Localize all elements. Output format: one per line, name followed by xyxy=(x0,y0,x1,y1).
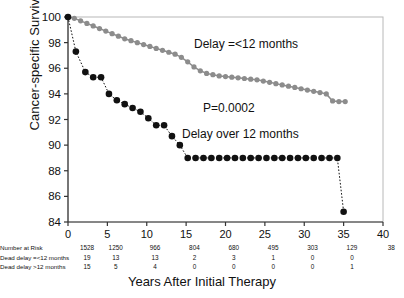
risk-cell: 0 xyxy=(332,253,371,263)
risk-table-row: Dead delay =<12 months19131323100 xyxy=(0,253,404,263)
risk-table-row: Dead delay >12 months155400001 xyxy=(0,262,404,272)
risk-cell: 5 xyxy=(96,262,135,272)
risk-cell: 0 xyxy=(293,262,332,272)
x-tick-label-5: 5 xyxy=(92,228,122,240)
x-tick-label-25: 25 xyxy=(250,228,280,240)
risk-cell: 1250 xyxy=(96,243,135,253)
x-tick-label-30: 30 xyxy=(289,228,319,240)
risk-cell: 13 xyxy=(135,253,174,263)
x-tick-label-0: 0 xyxy=(53,228,83,240)
risk-cell: 2 xyxy=(175,253,214,263)
risk-cell: 0 xyxy=(254,262,293,272)
risk-cell: 1 xyxy=(254,253,293,263)
risk-cell: 0 xyxy=(175,262,214,272)
risk-row-label: Dead delay =<12 months xyxy=(0,253,78,263)
risk-cell xyxy=(372,262,404,272)
risk-cell: 3 xyxy=(214,253,253,263)
risk-cell: 0 xyxy=(214,262,253,272)
risk-table: Number at Risk15281250966804680495303129… xyxy=(0,243,404,272)
svg-text:92: 92 xyxy=(48,114,61,126)
x-tick-label-20: 20 xyxy=(211,228,241,240)
risk-row-label: Dead delay >12 months xyxy=(0,262,78,272)
x-tick-label-15: 15 xyxy=(171,228,201,240)
risk-cell: 303 xyxy=(293,243,332,253)
svg-text:86: 86 xyxy=(48,190,61,202)
risk-cell: 38 xyxy=(372,243,404,253)
svg-text:88: 88 xyxy=(48,165,61,177)
svg-text:96: 96 xyxy=(48,62,61,74)
x-tick-label-10: 10 xyxy=(132,228,162,240)
x-axis-title: Years After Initial Therapy xyxy=(0,274,404,289)
survival-chart-figure: Cancer-specific Survival (%) 84868890929… xyxy=(0,0,404,298)
svg-text:94: 94 xyxy=(48,88,61,100)
risk-cell: 0 xyxy=(293,253,332,263)
risk-cell: 15 xyxy=(78,262,96,272)
x-tick-label-35: 35 xyxy=(329,228,359,240)
risk-cell: 1528 xyxy=(78,243,96,253)
annotation-p-value: P=0.0002 xyxy=(203,101,255,115)
x-tick-label-40: 40 xyxy=(368,228,398,240)
annotation-delay-over-12: Delay over 12 months xyxy=(182,127,299,141)
svg-text:90: 90 xyxy=(48,139,61,151)
risk-cell xyxy=(372,253,404,263)
risk-cell: 129 xyxy=(332,243,371,253)
risk-cell: 495 xyxy=(254,243,293,253)
risk-cell: 680 xyxy=(214,243,253,253)
risk-cell: 966 xyxy=(135,243,174,253)
risk-cell: 1 xyxy=(332,262,371,272)
risk-row-label: Number at Risk xyxy=(0,243,78,253)
annotation-delay-under-12: Delay =<12 months xyxy=(194,37,298,51)
risk-cell: 804 xyxy=(175,243,214,253)
svg-text:100: 100 xyxy=(42,11,61,23)
svg-text:84: 84 xyxy=(48,216,61,228)
risk-cell: 19 xyxy=(78,253,96,263)
risk-cell: 13 xyxy=(96,253,135,263)
svg-text:98: 98 xyxy=(48,37,61,49)
risk-cell: 4 xyxy=(135,262,174,272)
risk-table-row: Number at Risk15281250966804680495303129… xyxy=(0,243,404,253)
